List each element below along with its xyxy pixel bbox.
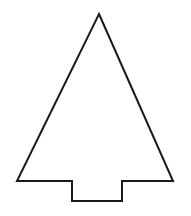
tree-outline-shape — [17, 14, 173, 201]
figure-canvas — [0, 0, 191, 216]
tree-diagram — [0, 0, 191, 216]
